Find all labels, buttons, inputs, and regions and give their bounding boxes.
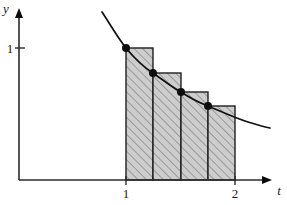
x-tick-label-1: 1 — [123, 186, 130, 201]
curve-point-3 — [177, 88, 185, 96]
y-tick-label-1: 1 — [7, 41, 14, 56]
x-axis-arrowhead — [262, 176, 272, 184]
x-axis-label: t — [277, 183, 281, 198]
figure-canvas: y t 1 1 2 — [0, 0, 287, 205]
riemann-bar-1 — [126, 48, 153, 180]
curve-point-4 — [204, 102, 212, 110]
y-axis-label: y — [1, 1, 9, 16]
curve-point-2 — [149, 69, 157, 77]
riemann-rectangles — [126, 48, 235, 180]
riemann-sum-figure: y t 1 1 2 — [0, 0, 287, 205]
y-axis-arrowhead — [15, 8, 23, 18]
riemann-bar-4 — [208, 106, 235, 180]
curve-point-1 — [122, 44, 130, 52]
x-tick-label-2: 2 — [232, 186, 239, 201]
